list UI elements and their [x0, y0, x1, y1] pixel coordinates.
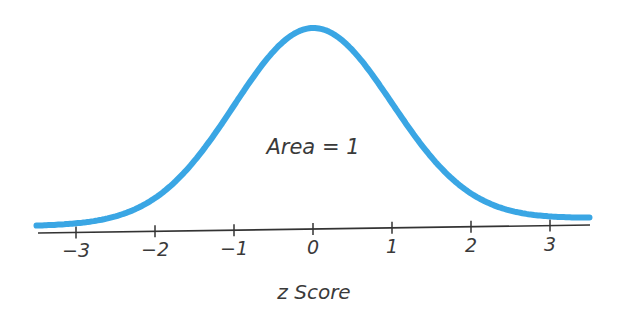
area-annotation: Area = 1: [264, 135, 359, 159]
x-tick-label: −1: [220, 237, 248, 259]
x-axis-tick-labels: −3−2−10123: [62, 233, 556, 262]
x-tick-label: −3: [62, 239, 90, 261]
normal-distribution-chart: −3−2−10123 Area = 1 z Score: [0, 0, 620, 328]
normal-curve: [37, 28, 590, 226]
x-axis-label: z Score: [276, 280, 350, 304]
x-axis-line: [38, 225, 590, 233]
x-tick-label: 2: [465, 234, 477, 256]
x-tick-label: −2: [141, 238, 169, 260]
x-tick-label: 0: [307, 236, 319, 258]
x-tick-label: 3: [544, 233, 556, 255]
x-tick-label: 1: [386, 235, 398, 257]
